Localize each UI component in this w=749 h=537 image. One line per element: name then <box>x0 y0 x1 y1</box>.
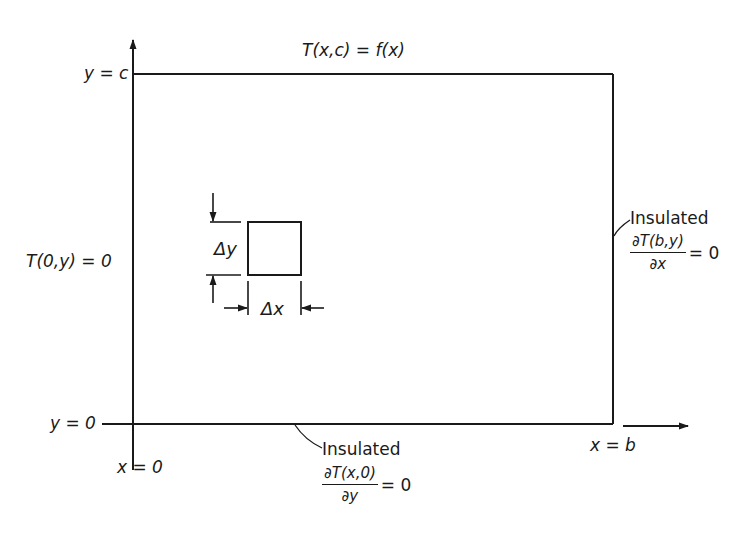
heat-conduction-diagram: y = c T(x,c) = f(x) T(0,y) = 0 y = 0 x =… <box>0 0 749 537</box>
delta-y-label: Δy <box>214 240 237 258</box>
bottom-boundary-condition: ∂T(x,0) ∂y = 0 <box>322 464 411 505</box>
right-insulated-label: Insulated <box>630 210 708 227</box>
bottom-derivative-denominator: ∂y <box>342 485 359 505</box>
y-equals-0-label: y = 0 <box>50 415 96 432</box>
right-derivative-numerator: ∂T(b,y) <box>630 232 686 253</box>
right-boundary-condition: ∂T(b,y) ∂x = 0 <box>630 232 719 273</box>
x-equals-b-label: x = b <box>590 437 636 454</box>
right-derivative-rhs: = 0 <box>689 243 719 263</box>
leader-line-bottom <box>295 425 322 448</box>
right-derivative-denominator: ∂x <box>650 253 667 273</box>
x-axis <box>102 424 688 426</box>
y-equals-c-label: y = c <box>84 65 128 82</box>
element-square <box>248 222 301 275</box>
bottom-derivative-numerator: ∂T(x,0) <box>322 464 378 485</box>
right-derivative-fraction: ∂T(b,y) ∂x <box>630 232 686 273</box>
top-boundary-condition: T(x,c) = f(x) <box>302 42 405 59</box>
x-equals-0-label: x = 0 <box>117 459 163 476</box>
leader-line-right <box>614 220 630 236</box>
bottom-derivative-rhs: = 0 <box>381 475 411 495</box>
bottom-derivative-fraction: ∂T(x,0) ∂y <box>322 464 378 505</box>
bottom-insulated-label: Insulated <box>322 441 400 458</box>
delta-x-label: Δx <box>261 300 284 318</box>
left-boundary-condition: T(0,y) = 0 <box>26 253 112 270</box>
domain-rectangle <box>133 74 613 424</box>
